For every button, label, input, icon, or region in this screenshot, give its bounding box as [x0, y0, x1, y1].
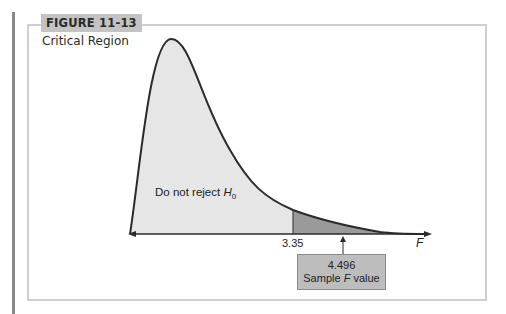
sample-caption: Sample F value [298, 272, 385, 285]
sample-value-callout: 4.496 Sample F value [297, 254, 386, 290]
axis-variable-label: F [416, 236, 423, 250]
f-distribution-plot [0, 0, 506, 314]
axis-right-arrow-icon [424, 231, 432, 237]
hypothesis-subscript: 0 [232, 192, 236, 201]
sample-pointer-arrow-icon [340, 236, 346, 242]
sample-suffix: value [350, 272, 379, 284]
sample-value: 4.496 [298, 259, 385, 272]
critical-value-label: 3.35 [282, 237, 303, 249]
hypothesis-symbol: H [223, 186, 231, 198]
sample-prefix: Sample [303, 272, 343, 284]
non-rejection-label: Do not reject H0 [155, 186, 236, 201]
region-text: Do not reject [155, 186, 223, 198]
